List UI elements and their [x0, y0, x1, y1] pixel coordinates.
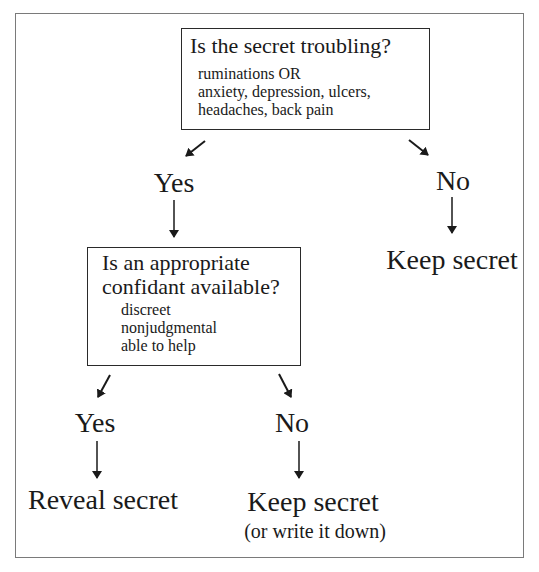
confidant-yes-label: Yes: [75, 408, 116, 438]
arrow-second-to-no-icon: [279, 374, 291, 397]
confidant-criterion: discreet: [121, 301, 300, 319]
arrow-second-to-yes-icon: [98, 375, 110, 397]
confidant-criterion: able to help: [121, 337, 300, 355]
root-question-box: Is the secret troubling? ruminations OR …: [181, 28, 430, 130]
confidant-question-box: Is an appropriate confidant available? d…: [87, 247, 301, 366]
confidant-no-label: No: [275, 408, 309, 438]
confidant-question-line1: Is an appropriate: [102, 251, 300, 275]
root-criterion: headaches, back pain: [198, 101, 429, 119]
keep-secret-outcome: Keep secret: [386, 245, 517, 275]
write-it-down-note: (or write it down): [244, 520, 386, 542]
root-no-label: No: [436, 166, 470, 196]
root-criterion: ruminations OR: [198, 65, 429, 83]
confidant-criteria: discreet nonjudgmental able to help: [102, 301, 300, 355]
reveal-secret-outcome: Reveal secret: [28, 485, 178, 515]
confidant-question-line2: confidant available?: [102, 275, 300, 299]
arrow-root-to-yes-icon: [186, 141, 205, 156]
root-question: Is the secret troubling?: [190, 34, 429, 58]
confidant-criterion: nonjudgmental: [121, 319, 300, 337]
root-yes-label: Yes: [154, 168, 195, 198]
arrow-root-to-no-icon: [409, 140, 428, 155]
root-criterion: anxiety, depression, ulcers,: [198, 83, 429, 101]
keep-secret-outcome-2: Keep secret: [247, 487, 378, 517]
root-criteria: ruminations OR anxiety, depression, ulce…: [190, 65, 429, 119]
